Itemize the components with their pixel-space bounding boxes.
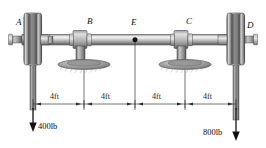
- dimension-label-cd: 4ft: [203, 93, 212, 101]
- pulley-a: [9, 13, 54, 110]
- point-label-a: A: [16, 18, 22, 27]
- force-label-800lb: 800lb: [203, 128, 222, 137]
- dimension-label-ab: 4ft: [50, 93, 59, 101]
- point-e-marker: [133, 37, 138, 42]
- dimension-label-be: 4ft: [101, 93, 110, 101]
- figure-canvas: A B E C D 4ft 4ft 4ft 4ft 400lb 800lb: [0, 0, 266, 148]
- point-label-d: D: [247, 21, 254, 30]
- point-label-b: B: [87, 17, 93, 26]
- force-arrow-400lb: [29, 108, 36, 132]
- force-label-400lb: 400lb: [38, 122, 57, 131]
- point-label-e: E: [131, 18, 137, 27]
- point-label-c: C: [186, 17, 192, 26]
- dimension-label-ec: 4ft: [152, 93, 161, 101]
